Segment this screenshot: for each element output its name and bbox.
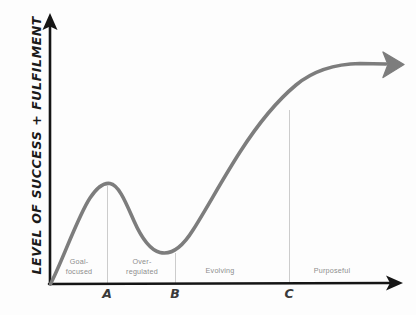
x-axis-line [49, 283, 391, 284]
region-label-over-regulated-line1: Over- [116, 257, 168, 267]
y-axis-title: LEVEL OF SUCCESS + FULFILMENT [29, 25, 44, 275]
y-axis [43, 13, 58, 284]
success-fulfilment-curve-figure: LEVEL OF SUCCESS + FULFILMENT A B C Goal… [0, 0, 416, 315]
region-label-evolving: Evolving [186, 266, 254, 276]
region-label-over-regulated: Over- regulated [116, 257, 168, 276]
region-label-goal-focused-line2: focused [56, 267, 102, 277]
region-label-goal-focused: Goal- focused [56, 257, 102, 276]
region-label-purposeful: Purposeful [296, 266, 368, 276]
region-label-over-regulated-line2: regulated [116, 267, 168, 277]
region-label-goal-focused-line1: Goal- [56, 257, 102, 267]
success-curve [51, 64, 387, 285]
x-tick-label-b: B [160, 286, 190, 301]
x-tick-label-a: A [92, 286, 122, 301]
curve-series [51, 52, 405, 284]
x-tick-label-c: C [274, 286, 304, 301]
